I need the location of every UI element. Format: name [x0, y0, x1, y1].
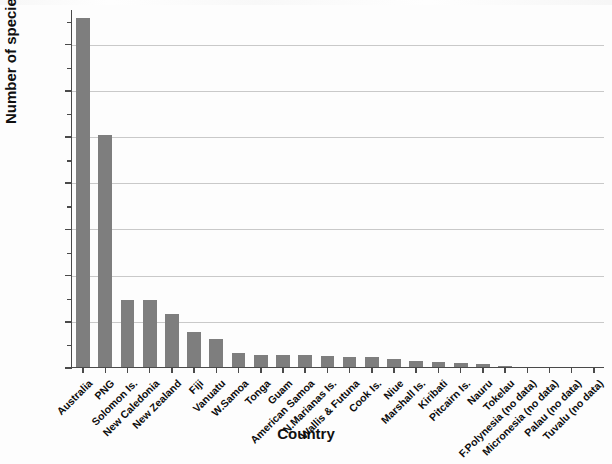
plot-area: 02,0004,0006,0008,00010,00012,00014,000 [71, 10, 604, 368]
gridline [72, 229, 604, 230]
scan-artifact [0, 0, 612, 5]
y-axis-tick [65, 229, 72, 231]
y-axis-minor-tick [67, 253, 72, 254]
plot-inner: 02,0004,0006,0008,00010,00012,00014,000 [72, 10, 604, 367]
y-axis-minor-tick [67, 206, 72, 207]
x-axis-tick-label-text: Australia [54, 377, 94, 417]
bar-chart-figure: Number of species 02,0004,0006,0008,0001… [0, 0, 612, 464]
y-axis-tick [65, 44, 72, 46]
y-axis-title: Number of species [2, 0, 26, 124]
x-axis-tick [216, 367, 218, 373]
y-axis-tick [65, 182, 72, 184]
y-axis-minor-tick [67, 345, 72, 346]
gridline [72, 45, 604, 46]
y-axis-tick [65, 136, 72, 138]
y-axis-minor-tick [67, 22, 72, 23]
y-axis-tick [65, 367, 72, 369]
y-axis-minor-tick [67, 114, 72, 115]
x-axis-tick [82, 367, 84, 373]
y-axis-minor-tick [67, 160, 72, 161]
y-axis-tick [65, 275, 72, 277]
gridline [72, 276, 604, 277]
y-axis-tick [65, 90, 72, 92]
gridline [72, 137, 604, 138]
y-axis-minor-tick [67, 68, 72, 69]
y-axis-minor-tick [67, 299, 72, 300]
bar [76, 18, 90, 367]
gridline [72, 183, 604, 184]
y-axis-tick [65, 321, 72, 323]
bar [98, 135, 112, 367]
gridline [72, 91, 604, 92]
